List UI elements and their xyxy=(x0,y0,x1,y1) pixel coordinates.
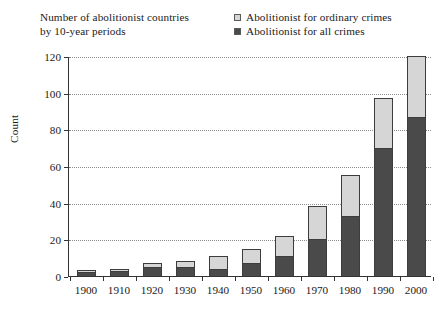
x-tick-label: 1970 xyxy=(306,284,328,296)
legend-swatch-ordinary-crimes xyxy=(234,14,241,21)
bar-1980 xyxy=(341,175,360,276)
bar-1940 xyxy=(209,256,228,276)
x-tick-label: 2000 xyxy=(405,284,427,296)
y-tick-mark xyxy=(64,204,68,205)
bar-1960 xyxy=(275,236,294,276)
gridline xyxy=(69,94,431,96)
bar-1920 xyxy=(143,263,162,276)
bar-segment-all-crimes xyxy=(275,256,294,276)
x-tick-mark xyxy=(400,277,401,281)
y-tick-label: 80 xyxy=(50,124,61,136)
y-tick-mark xyxy=(64,94,68,95)
chart-legend: Abolitionist for ordinary crimes Aboliti… xyxy=(234,11,448,39)
x-tick-mark xyxy=(301,277,302,281)
x-tick-label: 1930 xyxy=(174,284,196,296)
bar-1930 xyxy=(176,261,195,276)
x-axis-line xyxy=(68,276,431,277)
y-tick-label: 40 xyxy=(50,198,61,210)
x-tick-label: 1990 xyxy=(372,284,394,296)
plot-area: 020406080100120 190019101920193019401950… xyxy=(68,57,431,277)
bar-segment-ordinary-crimes xyxy=(407,56,426,117)
x-tick-mark xyxy=(433,277,434,281)
x-tick-mark xyxy=(334,277,335,281)
bar-segment-all-crimes xyxy=(209,269,228,276)
bar-segment-ordinary-crimes xyxy=(275,236,294,256)
legend-label-all-crimes: Abolitionist for all crimes xyxy=(246,25,365,39)
legend-label-ordinary-crimes: Abolitionist for ordinary crimes xyxy=(246,11,392,25)
legend-item-all-crimes: Abolitionist for all crimes xyxy=(234,25,448,39)
y-tick-label: 0 xyxy=(55,271,61,283)
chart-title-line-1: Number of abolitionist countries xyxy=(40,11,240,25)
x-tick-mark xyxy=(268,277,269,281)
bar-1990 xyxy=(374,98,393,276)
bar-segment-all-crimes xyxy=(374,148,393,276)
bar-segment-ordinary-crimes xyxy=(242,249,261,264)
y-tick-label: 60 xyxy=(50,161,61,173)
bar-segment-ordinary-crimes xyxy=(374,98,393,148)
gridline xyxy=(69,57,431,59)
bar-segment-ordinary-crimes xyxy=(308,206,327,239)
x-tick-label: 1960 xyxy=(273,284,295,296)
y-tick-mark xyxy=(64,277,68,278)
chart-title-line-2: by 10-year periods xyxy=(40,25,240,39)
bar-segment-all-crimes xyxy=(110,271,129,277)
bar-segment-all-crimes xyxy=(308,239,327,276)
x-tick-label: 1910 xyxy=(108,284,130,296)
y-tick-mark xyxy=(64,240,68,241)
chart-title: Number of abolitionist countries by 10-y… xyxy=(40,11,240,38)
legend-item-ordinary-crimes: Abolitionist for ordinary crimes xyxy=(234,11,448,25)
x-tick-mark xyxy=(136,277,137,281)
x-tick-label: 1950 xyxy=(240,284,262,296)
x-tick-mark xyxy=(235,277,236,281)
x-tick-mark xyxy=(103,277,104,281)
chart-figure: Number of abolitionist countries by 10-y… xyxy=(0,0,448,316)
x-tick-label: 1920 xyxy=(141,284,163,296)
x-tick-mark xyxy=(70,277,71,281)
y-tick-mark xyxy=(64,130,68,131)
bar-segment-all-crimes xyxy=(176,267,195,276)
bar-segment-all-crimes xyxy=(143,267,162,276)
bar-1900 xyxy=(77,270,96,276)
bar-segment-ordinary-crimes xyxy=(209,256,228,269)
x-tick-label: 1900 xyxy=(75,284,97,296)
x-tick-label: 1940 xyxy=(207,284,229,296)
y-axis-title: Count xyxy=(8,115,20,143)
y-tick-mark xyxy=(64,167,68,168)
bar-segment-all-crimes xyxy=(407,117,426,277)
bar-1970 xyxy=(308,206,327,276)
x-tick-mark xyxy=(169,277,170,281)
bar-segment-all-crimes xyxy=(242,263,261,276)
bar-segment-ordinary-crimes xyxy=(341,175,360,215)
bar-2000 xyxy=(407,56,426,276)
x-tick-mark xyxy=(367,277,368,281)
legend-swatch-all-crimes xyxy=(234,28,241,35)
y-tick-label: 120 xyxy=(44,51,61,63)
bar-1950 xyxy=(242,249,261,276)
x-tick-mark xyxy=(202,277,203,281)
x-tick-label: 1980 xyxy=(339,284,361,296)
bar-1910 xyxy=(110,269,129,277)
y-tick-mark xyxy=(64,57,68,58)
y-tick-label: 100 xyxy=(44,88,61,100)
bar-segment-all-crimes xyxy=(77,272,96,276)
y-tick-label: 20 xyxy=(50,234,61,246)
bar-segment-all-crimes xyxy=(341,216,360,277)
